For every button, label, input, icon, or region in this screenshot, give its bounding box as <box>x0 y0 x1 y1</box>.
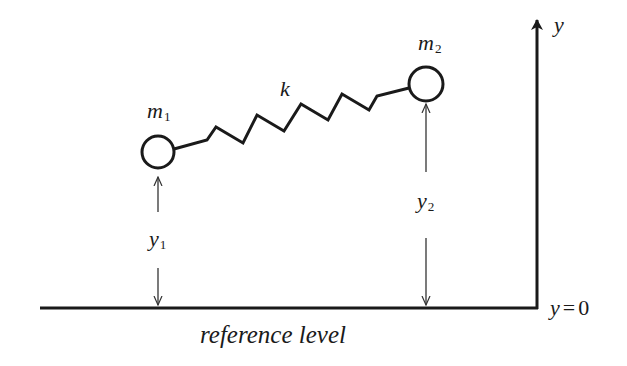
mass-m1-circle <box>142 136 174 168</box>
zero-level-equals: = <box>560 295 578 320</box>
spring-constant-label: k <box>280 78 290 100</box>
height-y1-subscript: 1 <box>160 237 167 252</box>
y-axis-label: y <box>554 14 564 36</box>
height-y1-symbol: y <box>149 226 159 251</box>
mass-m1-symbol: m <box>147 98 163 123</box>
y-axis-symbol: y <box>554 12 564 37</box>
mass-m2-label: m2 <box>418 32 441 56</box>
zero-level-value: 0 <box>578 295 589 320</box>
mass-m1-subscript: 1 <box>164 109 171 124</box>
height-y1-label: y1 <box>149 228 166 252</box>
spring-zigzag <box>174 88 409 149</box>
zero-level-label: y=0 <box>550 297 589 319</box>
reference-level-label: reference level <box>200 322 346 347</box>
spring-constant-symbol: k <box>280 76 290 101</box>
reference-level-text: reference level <box>200 321 346 348</box>
diagram-graphics <box>0 0 627 366</box>
height-y2-symbol: y <box>417 188 427 213</box>
spring-mass-diagram: m1 m2 k y1 y2 y y=0 reference level <box>0 0 627 366</box>
mass-m2-circle <box>409 67 443 101</box>
mass-m2-subscript: 2 <box>435 41 442 56</box>
height-y2-label: y2 <box>417 190 434 214</box>
height-y2-subscript: 2 <box>428 199 435 214</box>
mass-m2-symbol: m <box>418 30 434 55</box>
zero-level-variable: y <box>550 295 560 320</box>
mass-m1-label: m1 <box>147 100 170 124</box>
